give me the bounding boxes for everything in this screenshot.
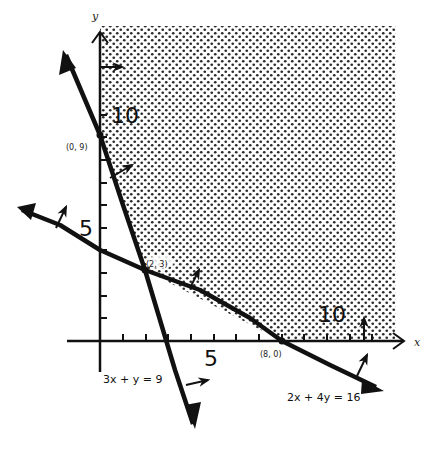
y-tick-label-5: 5 <box>79 216 93 241</box>
y-axis-label: y <box>91 10 99 23</box>
shade-direction-arrow-icon <box>357 355 367 376</box>
point-label-0-9: (0, 9) <box>66 143 88 152</box>
shade-direction-arrow-icon <box>186 380 208 385</box>
vertex-0-9 <box>97 132 104 139</box>
x-tick-label-10: 10 <box>318 302 346 327</box>
arrow-down-icon <box>185 402 201 429</box>
point-label-2-3: (2, 3) <box>146 260 168 269</box>
x-axis-label: x <box>414 336 421 349</box>
y-tick-label-10: 10 <box>111 103 139 128</box>
point-label-8-0: (8, 0) <box>260 350 282 359</box>
vertex-8-0 <box>279 338 286 345</box>
x-tick-label-5: 5 <box>204 346 218 371</box>
linear-programming-graph: y x 10 5 5 10 (0, 9) (2, 3) (8, 0) 3x + … <box>0 0 441 458</box>
arrow-left-icon <box>17 203 36 220</box>
arrow-right-icon <box>361 379 384 394</box>
feasible-region <box>100 26 396 341</box>
equation-label-line1: 3x + y = 9 <box>103 373 162 386</box>
equation-label-line2: 2x + 4y = 16 <box>287 391 360 404</box>
